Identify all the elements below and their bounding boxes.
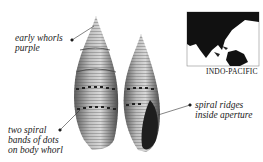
early-whorls-label: early whorls purple: [15, 33, 63, 53]
early-whorls-line-2: purple: [15, 43, 63, 53]
map-region-label: INDO-PACIFIC: [206, 67, 258, 76]
indo-pacific-map: [187, 12, 259, 66]
spiral-bands-label: two spiral bands of dots on body whorl: [8, 125, 63, 155]
spiral-bands-line-1: two spiral: [8, 125, 63, 135]
right-shell: [124, 34, 160, 152]
left-shell: [74, 16, 118, 150]
spiral-ridges-line-2: inside aperture: [195, 110, 252, 120]
spiral-bands-line-3: on body whorl: [8, 145, 63, 155]
spiral-ridges-label: spiral ridges inside aperture: [195, 100, 252, 120]
spiral-bands-line-2: bands of dots: [8, 135, 63, 145]
early-whorls-line-1: early whorls: [15, 33, 63, 43]
spiral-ridges-line-1: spiral ridges: [195, 100, 252, 110]
